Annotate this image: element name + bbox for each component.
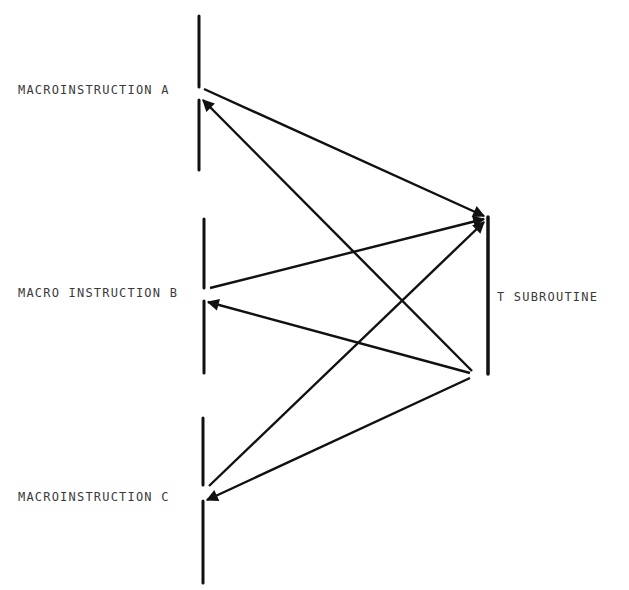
call-arrow-c-to-t: [209, 222, 484, 486]
label-macroinstruction-b: MACRO INSTRUCTION B: [18, 286, 178, 300]
return-arrow-t-to-a: [203, 100, 472, 371]
label-t-subroutine: T SUBROUTINE: [497, 290, 598, 304]
call-arrow-a-to-t: [204, 89, 484, 216]
label-macroinstruction-a: MACROINSTRUCTION A: [18, 83, 170, 97]
return-arrow-t-to-c: [207, 378, 470, 500]
label-macroinstruction-c: MACROINSTRUCTION C: [18, 490, 170, 504]
call-arrow-b-to-t: [210, 219, 484, 288]
